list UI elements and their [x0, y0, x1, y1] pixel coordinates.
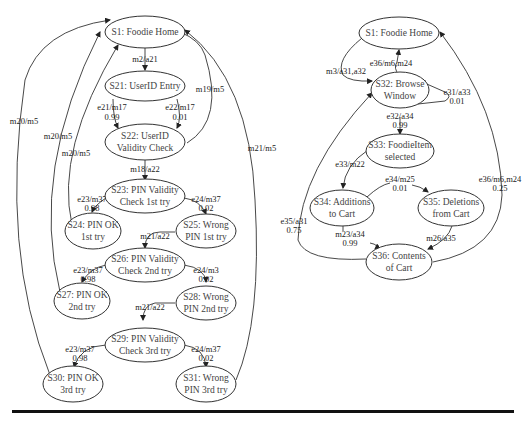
- label-prob-098-2: 0.98: [81, 274, 96, 284]
- label-prob-098-3: 0.98: [73, 353, 88, 363]
- svg-text:S30: PIN OK: S30: PIN OK: [47, 373, 98, 383]
- svg-text:2nd try: 2nd try: [68, 302, 95, 312]
- edge-s31-s1: [185, 30, 256, 380]
- label-e21-m17: e21/m17: [97, 102, 127, 112]
- label-prob-002-1: 0.02: [199, 203, 214, 213]
- node-s32: S32: Browse Window: [371, 72, 429, 108]
- svg-text:PIN 3rd try: PIN 3rd try: [184, 385, 228, 395]
- node-s23: S23: PIN Validity Check 1st try: [105, 179, 185, 213]
- svg-text:S35: Deletions: S35: Deletions: [423, 197, 480, 207]
- node-s21: S21: UserID Entry: [105, 71, 185, 101]
- label-prob-001-del: 0.01: [393, 183, 408, 193]
- label-e22-m17: e22/m17: [165, 102, 195, 112]
- svg-text:PIN 1st try: PIN 1st try: [185, 232, 227, 242]
- label-e36-m6-m24: e36/m6,m24: [370, 58, 413, 68]
- svg-text:S21: UserID Entry: S21: UserID Entry: [109, 81, 180, 91]
- node-s35: S35: Deletions from Cart: [418, 190, 484, 226]
- label-prob-099-add: 0.99: [343, 238, 358, 248]
- svg-text:of Cart: of Cart: [386, 263, 413, 273]
- horizontal-rule: [12, 410, 514, 413]
- node-s22: S22: UserID Validity Check: [105, 124, 185, 160]
- label-prob-099: 0.99: [105, 112, 120, 122]
- edge-s36-s1: [433, 32, 502, 262]
- svg-text:S22: UserID: S22: UserID: [121, 131, 169, 141]
- label-e33-m22: e33/m22: [335, 159, 365, 169]
- svg-text:S33: FoodieItem: S33: FoodieItem: [368, 140, 432, 150]
- svg-text:PIN 2nd try: PIN 2nd try: [184, 304, 229, 314]
- label-prob-075: 0.75: [287, 225, 302, 235]
- node-s26: S26: PIN Validity Check 2nd try: [105, 248, 185, 282]
- state-diagram-canvas: m2/a21 e21/m17 0.99 e22/m17 0.01 m19/m5 …: [0, 0, 531, 421]
- svg-text:S26: PIN Validity: S26: PIN Validity: [111, 254, 179, 264]
- node-s1-left: S1: Foodie Home: [105, 16, 185, 48]
- node-s29: S29: PIN Validity Check 3rd try: [105, 328, 185, 362]
- label-prob-001-cart: 0.01: [450, 96, 465, 106]
- svg-text:S31: Wrong: S31: Wrong: [183, 373, 229, 383]
- svg-text:selected: selected: [385, 152, 416, 162]
- cart-nodes: S1: Foodie Home S32: Browse Window S33: …: [310, 17, 484, 280]
- svg-text:Check 2nd try: Check 2nd try: [118, 266, 172, 276]
- svg-text:S24: PIN OK: S24: PIN OK: [67, 220, 118, 230]
- node-s31: S31: Wrong PIN 3rd try: [176, 366, 236, 402]
- svg-text:from Cart: from Cart: [432, 209, 470, 219]
- node-s33: S33: FoodieItem selected: [366, 134, 434, 168]
- label-prob-025: 0.25: [493, 183, 508, 193]
- node-s27: S27: PIN OK 2nd try: [54, 283, 110, 319]
- svg-text:Check 3rd try: Check 3rd try: [119, 346, 171, 356]
- svg-text:to Cart: to Cart: [329, 209, 355, 219]
- label-m21-m5: m21/m5: [248, 143, 276, 153]
- label-prob-002-2: 0.02: [199, 274, 214, 284]
- svg-text:S27: PIN OK: S27: PIN OK: [56, 290, 107, 300]
- svg-text:S1: Foodie Home: S1: Foodie Home: [111, 27, 178, 37]
- svg-text:Window: Window: [384, 91, 416, 101]
- svg-text:Validity Check: Validity Check: [117, 143, 174, 153]
- label-prob-002-3: 0.02: [199, 353, 214, 363]
- label-m26-a35: m26/a35: [426, 233, 456, 243]
- edge-s27-s1: [51, 32, 100, 292]
- svg-text:Check 1st try: Check 1st try: [120, 197, 171, 207]
- label-m21-a22-1: m21/a22: [140, 231, 170, 241]
- label-m20-m5-3: m20/m5: [10, 116, 38, 126]
- svg-text:S1: Foodie Home: S1: Foodie Home: [365, 28, 432, 38]
- label-m20-m5-2: m20/m5: [44, 131, 72, 141]
- svg-text:3rd try: 3rd try: [60, 385, 86, 395]
- label-m20-m5-1: m20/m5: [62, 148, 90, 158]
- node-s30: S30: PIN OK 3rd try: [43, 366, 103, 402]
- label-m19-m5: m19/m5: [196, 84, 224, 94]
- label-m21-a22-2: m21/a22: [135, 302, 165, 312]
- label-prob-001: 0.01: [173, 112, 188, 122]
- svg-text:S32: Browse: S32: Browse: [376, 79, 425, 89]
- svg-text:S23: PIN Validity: S23: PIN Validity: [111, 185, 179, 195]
- node-s28: S28: Wrong PIN 2nd try: [176, 286, 236, 320]
- node-s36: S36: Contents of Cart: [366, 244, 432, 280]
- label-m18-a22: m18/a22: [130, 164, 160, 174]
- svg-text:S34: Additions: S34: Additions: [314, 197, 371, 207]
- svg-text:1st try: 1st try: [81, 232, 105, 242]
- node-s24: S24: PIN OK 1st try: [65, 213, 121, 249]
- node-s1-right: S1: Foodie Home: [359, 17, 439, 49]
- svg-text:S36: Contents: S36: Contents: [372, 251, 426, 261]
- svg-text:S25: Wrong: S25: Wrong: [183, 220, 229, 230]
- label-m2-a21: m2/a21: [132, 54, 158, 64]
- label-prob-098-1: 0.98: [85, 203, 100, 213]
- label-prob-099-cart: 0.99: [393, 120, 408, 130]
- svg-text:S28: Wrong: S28: Wrong: [183, 292, 229, 302]
- node-s25: S25: Wrong PIN 1st try: [176, 214, 236, 248]
- svg-text:S29: PIN Validity: S29: PIN Validity: [111, 334, 179, 344]
- node-s34: S34: Additions to Cart: [310, 190, 374, 226]
- label-m3-a31-a32: m3/a31,a32: [326, 66, 366, 76]
- edge-s33-s34: [343, 150, 368, 188]
